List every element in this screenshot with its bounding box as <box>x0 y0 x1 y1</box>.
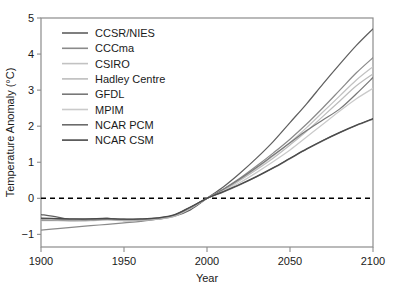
y-tick-label: 3 <box>28 84 34 96</box>
legend-label: Hadley Centre <box>95 73 165 85</box>
y-axis-title: Temperature Anomaly (°C) <box>4 68 16 198</box>
legend-label: CSIRO <box>95 58 130 70</box>
x-axis-title: Year <box>196 272 219 284</box>
y-tick-label: 5 <box>28 12 34 24</box>
x-tick-label: 2100 <box>361 255 385 267</box>
y-tick-label: 4 <box>28 48 34 60</box>
x-tick-label: 1900 <box>29 255 53 267</box>
y-tick-label: 1 <box>28 156 34 168</box>
legend-label: CCSR/NIES <box>95 27 155 39</box>
figure-background <box>0 0 396 287</box>
x-tick-label: 1950 <box>112 255 136 267</box>
x-tick-label: 2050 <box>278 255 302 267</box>
y-tick-label: 2 <box>28 120 34 132</box>
y-tick-label: −1 <box>21 228 34 240</box>
x-tick-label: 2000 <box>195 255 219 267</box>
legend-label: MPIM <box>95 104 124 116</box>
legend-label: NCAR CSM <box>95 134 154 146</box>
chart-svg: −101234519001950200020502100YearTemperat… <box>0 0 396 287</box>
climate-projection-chart: −101234519001950200020502100YearTemperat… <box>0 0 396 287</box>
y-tick-label: 0 <box>28 192 34 204</box>
legend-label: GFDL <box>95 88 124 100</box>
legend-label: NCAR PCM <box>95 119 154 131</box>
legend-label: CCCma <box>95 42 135 54</box>
